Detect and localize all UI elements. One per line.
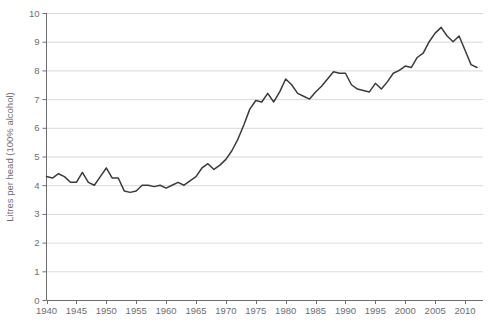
x-tick-label: 1940 [36,305,57,316]
y-tick-label: 5 [34,151,39,162]
y-tick-label: 10 [29,8,40,19]
y-axis-tick-labels: 012345678910 [29,8,47,306]
x-tick-label: 1950 [96,305,117,316]
y-tick-label: 3 [34,208,39,219]
line-chart: 012345678910 194019451950195519601965197… [0,0,490,325]
y-axis-title: Litres per head (100% alcohol) [4,92,15,221]
y-tick-label: 8 [34,65,39,76]
x-tick-label: 1990 [335,305,356,316]
x-tick-label: 1960 [156,305,177,316]
x-tick-label: 2005 [425,305,446,316]
y-tick-label: 2 [34,237,39,248]
data-series-line [47,27,478,192]
x-tick-label: 1955 [126,305,147,316]
x-tick-label: 1975 [245,305,266,316]
x-axis-tick-labels: 1940194519501955196019651970197519801985… [36,305,476,316]
x-tick-label: 1945 [66,305,87,316]
y-tick-label: 0 [34,295,39,306]
x-tick-label: 1965 [185,305,206,316]
x-tick-label: 2000 [395,305,416,316]
y-tick-label: 7 [34,94,39,105]
x-tick-label: 1980 [275,305,296,316]
x-tick-label: 1995 [365,305,386,316]
x-tick-label: 1985 [305,305,326,316]
x-tick-label: 1970 [215,305,236,316]
y-tick-label: 6 [34,122,39,133]
chart-container: 012345678910 194019451950195519601965197… [0,0,490,325]
y-tick-label: 1 [34,266,39,277]
y-tick-label: 9 [34,36,39,47]
y-tick-label: 4 [34,180,39,191]
gridlines-group [47,14,484,272]
x-tick-label: 2010 [454,305,475,316]
